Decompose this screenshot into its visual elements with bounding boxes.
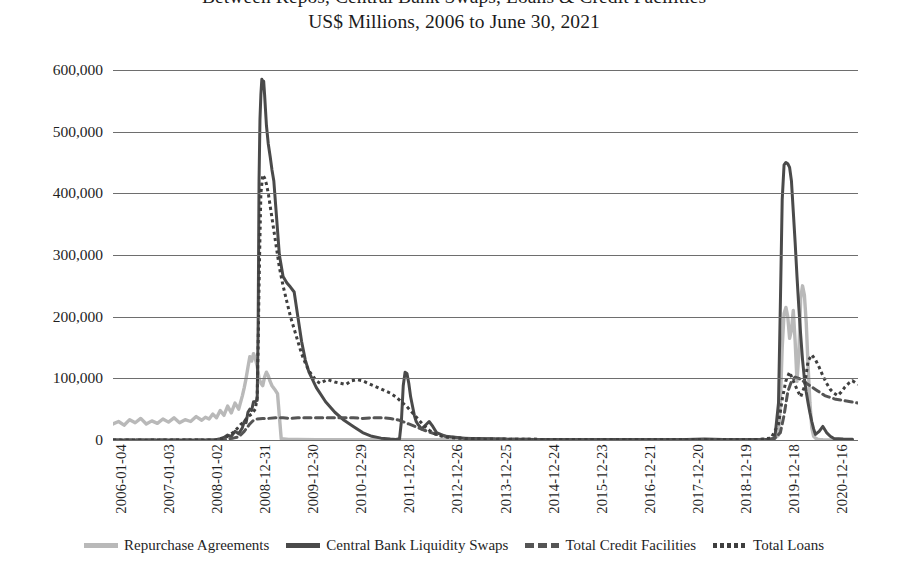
title-line-2: US$ Millions, 2006 to June 30, 2021 <box>0 9 908 34</box>
legend-label: Total Credit Facilities <box>565 538 696 553</box>
legend-swatch <box>525 543 559 548</box>
x-tick-label: 2019-12-18 <box>786 444 803 514</box>
x-axis-labels: 2006-01-042007-01-032008-01-022008-12-31… <box>113 444 858 536</box>
x-tick-label: 2018-12-19 <box>738 444 755 514</box>
x-tick-label: 2015-12-23 <box>594 444 611 514</box>
gridline <box>113 193 858 194</box>
legend-item[interactable]: Repurchase Agreements <box>84 538 269 553</box>
x-tick-label: 2006-01-04 <box>113 444 130 514</box>
x-tick-label: 2013-12-25 <box>498 444 515 514</box>
y-tick-label: 0 <box>0 431 103 449</box>
x-tick-label: 2014-12-24 <box>546 444 563 514</box>
legend-item[interactable]: Total Credit Facilities <box>525 538 696 553</box>
x-tick-label: 2008-01-02 <box>209 444 226 514</box>
y-tick-label: 400,000 <box>0 184 103 202</box>
x-tick-label: 2008-12-31 <box>257 444 274 514</box>
x-tick-label: 2010-12-29 <box>353 444 370 514</box>
gridline <box>113 440 858 441</box>
y-tick-label: 300,000 <box>0 246 103 264</box>
series-line <box>113 175 858 440</box>
legend-item[interactable]: Central Bank Liquidity Swaps <box>286 538 508 553</box>
series-line <box>113 377 858 440</box>
legend-swatch <box>84 543 118 548</box>
legend-item[interactable]: Total Loans <box>713 538 824 553</box>
x-tick-label: 2011-12-28 <box>401 444 418 513</box>
gridline <box>113 132 858 133</box>
title-line-1: Between Repos, Central Bank Swaps, Loans… <box>0 0 908 9</box>
gridline <box>113 378 858 379</box>
gridline <box>113 70 858 71</box>
legend-label: Repurchase Agreements <box>124 538 269 553</box>
x-tick-label: 2020-12-16 <box>834 444 851 514</box>
series-line <box>113 79 852 440</box>
legend-swatch <box>286 543 320 548</box>
legend-label: Total Loans <box>753 538 824 553</box>
plot-area <box>113 70 858 440</box>
x-tick-label: 2016-12-21 <box>642 444 659 514</box>
gridline <box>113 255 858 256</box>
legend-label: Central Bank Liquidity Swaps <box>326 538 508 553</box>
x-tick-label: 2007-01-03 <box>161 444 178 514</box>
y-tick-label: 600,000 <box>0 61 103 79</box>
y-tick-label: 100,000 <box>0 369 103 387</box>
chart-legend: Repurchase AgreementsCentral Bank Liquid… <box>0 538 908 553</box>
y-tick-label: 200,000 <box>0 308 103 326</box>
legend-swatch <box>713 543 747 548</box>
chart-title: Between Repos, Central Bank Swaps, Loans… <box>0 0 908 34</box>
chart-page: Between Repos, Central Bank Swaps, Loans… <box>0 0 908 566</box>
x-tick-label: 2009-12-30 <box>305 444 322 514</box>
x-tick-label: 2012-12-26 <box>449 444 466 514</box>
x-tick-label: 2017-12-20 <box>690 444 707 514</box>
gridline <box>113 317 858 318</box>
series-line <box>113 286 852 440</box>
y-tick-label: 500,000 <box>0 123 103 141</box>
